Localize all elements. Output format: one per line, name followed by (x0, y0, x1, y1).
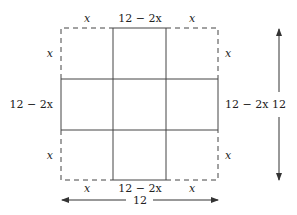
corner-top-right (166, 28, 218, 79)
label-left-middle: 12 − 2x (10, 98, 54, 111)
label-horizontal-12: 12 (133, 194, 147, 207)
dashed-corner-cutouts (61, 28, 218, 180)
label-top-right-x: x (189, 12, 196, 25)
label-top-middle: 12 − 2x (118, 12, 162, 25)
label-bottom-left-x: x (84, 182, 91, 195)
label-bottom-right-x: x (189, 182, 196, 195)
label-right-top-x: x (225, 47, 232, 60)
corner-bottom-left (61, 130, 113, 180)
cross-net (61, 28, 218, 180)
label-left-top-x: x (47, 47, 54, 60)
label-top-left-x: x (84, 12, 91, 25)
corner-top-left (61, 28, 113, 79)
corner-bottom-right (166, 130, 218, 180)
box-net-diagram: x 12 − 2x x x 12 − 2x x x 12 − 2x x x 12… (0, 0, 297, 215)
label-left-bottom-x: x (47, 149, 54, 162)
label-vertical-12: 12 (272, 98, 286, 111)
label-right-middle: 12 − 2x (225, 98, 269, 111)
label-right-bottom-x: x (225, 149, 232, 162)
